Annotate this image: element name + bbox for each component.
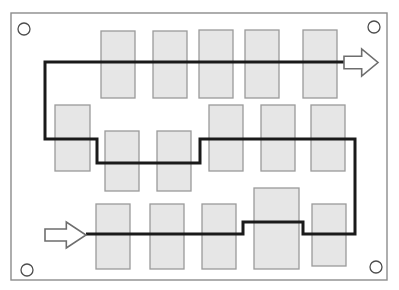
component-top-1[interactable]	[101, 31, 135, 98]
mounting-hole-top-left	[18, 23, 30, 35]
mounting-hole-top-right	[368, 21, 380, 33]
diagram-canvas	[0, 0, 399, 290]
component-bot-1[interactable]	[96, 204, 130, 269]
component-top-4[interactable]	[245, 30, 279, 98]
component-bot-2[interactable]	[150, 204, 184, 269]
mounting-hole-bottom-right	[370, 261, 382, 273]
component-top-5[interactable]	[303, 30, 337, 98]
component-bot-4[interactable]	[254, 188, 299, 269]
component-bot-3[interactable]	[202, 204, 236, 269]
component-top-3[interactable]	[199, 30, 233, 98]
mounting-hole-bottom-left	[21, 264, 33, 276]
component-mid-2[interactable]	[105, 131, 139, 191]
component-top-2[interactable]	[153, 31, 187, 98]
component-mid-3[interactable]	[157, 131, 191, 191]
pcb-diagram	[0, 0, 399, 290]
